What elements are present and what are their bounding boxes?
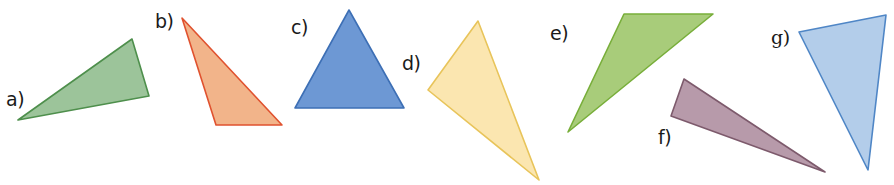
triangle-f [671,79,825,172]
label-a: a) [6,90,24,109]
label-c: c) [291,18,308,37]
label-g: g) [771,28,790,47]
label-d: d) [402,54,420,73]
triangle-c [295,10,404,108]
triangle-d [428,21,539,180]
triangle-b [182,18,282,125]
triangle-a [18,39,149,120]
triangles-figure [0,0,894,185]
label-f: f) [658,128,671,147]
triangle-g [799,15,886,170]
label-b: b) [155,12,173,31]
label-e: e) [550,24,568,43]
